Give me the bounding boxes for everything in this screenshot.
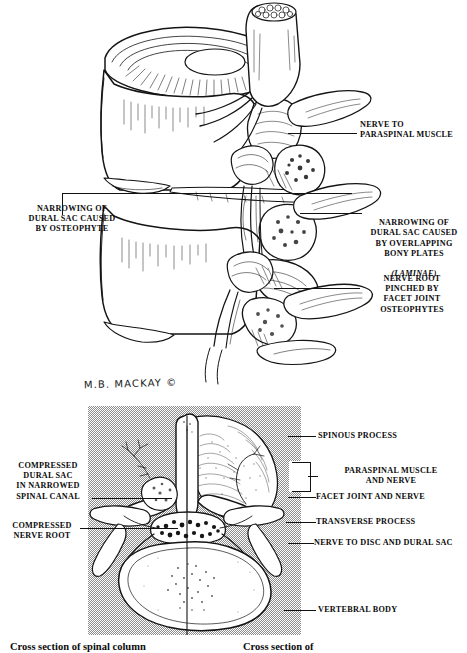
label-nerve-to-disc-and-dural-sac: NERVE TO DISC AND DURAL SAC bbox=[314, 538, 467, 548]
leader-nerve-root-pinched bbox=[274, 288, 360, 289]
left-facet-and-pedicle bbox=[122, 440, 177, 510]
figure-root: NARROWING OF DURAL SAC CAUSED BY OSTEOPH… bbox=[0, 0, 467, 653]
label-nerve-root-pinched: NERVE ROOT PINCHED BY FACET JOINT OSTEOP… bbox=[360, 274, 464, 315]
label-paraspinal-muscle-and-nerve: PARASPINAL MUSCLE AND NERVE bbox=[318, 466, 464, 486]
leader-compressed-dural-sac bbox=[92, 498, 172, 499]
leader-paraspinal-muscle bbox=[308, 476, 318, 477]
caption-cross-section-spinal-column: Cross section of spinal column bbox=[10, 641, 240, 653]
leader-compressed-nerve-root bbox=[80, 528, 178, 529]
label-nerve-to-paraspinal-muscle: NERVE TO PARASPINAL MUSCLE bbox=[360, 120, 464, 140]
leader-vertebral-body bbox=[284, 610, 316, 611]
leader-narrowing-bony-plates bbox=[300, 213, 362, 214]
vertebral-body bbox=[119, 542, 271, 631]
bracket-paraspinal-muscle bbox=[292, 462, 311, 492]
caption-cross-section-of: Cross section of bbox=[243, 641, 443, 653]
lower-processes bbox=[205, 340, 335, 384]
label-narrowing-bony-plates: NARROWING OF DURAL SAC CAUSED BY OVERLAP… bbox=[362, 208, 466, 279]
leader-nerve-to-disc-and-dural-sac bbox=[288, 543, 314, 544]
label-vertebral-body: VERTEBRAL BODY bbox=[318, 605, 464, 615]
sagittal-illustration bbox=[0, 0, 467, 400]
label-compressed-nerve-root: COMPRESSED NERVE ROOT bbox=[2, 521, 82, 541]
leader-transverse-process bbox=[286, 522, 316, 523]
leader-nerve-to-paraspinal-muscle bbox=[288, 133, 357, 134]
leader-spinous-process bbox=[288, 436, 316, 437]
label-narrowing-bony-plates-text: NARROWING OF DURAL SAC CAUSED BY OVERLAP… bbox=[371, 218, 458, 258]
label-narrowing-of-dural-sac-osteophyte: NARROWING OF DURAL SAC CAUSED BY OSTEOPH… bbox=[6, 204, 138, 235]
label-compressed-dural-sac: COMPRESSED DURAL SAC IN NARROWED SPINAL … bbox=[2, 461, 94, 502]
leader-facet-joint-and-nerve bbox=[288, 497, 316, 498]
axial-cross-section-illustration bbox=[88, 406, 301, 635]
label-transverse-process: TRANSVERSE PROCESS bbox=[316, 517, 466, 527]
leader-narrowing-osteophyte-horizontal bbox=[62, 193, 352, 194]
label-facet-joint-and-nerve: FACET JOINT AND NERVE bbox=[316, 492, 466, 502]
label-spinous-process: SPINOUS PROCESS bbox=[318, 431, 464, 441]
